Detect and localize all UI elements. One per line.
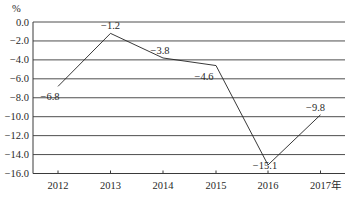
y-tick-label: 0.0 <box>16 17 29 28</box>
x-tick-label: 2015 <box>206 180 227 191</box>
y-tick-label: −16.0 <box>5 168 29 179</box>
y-tick-label: −10.0 <box>5 111 29 122</box>
y-tick-label: −8.0 <box>10 92 29 103</box>
gridlines <box>33 22 345 155</box>
x-tick-label: 2016 <box>258 180 279 191</box>
y-axis-unit: % <box>12 3 21 14</box>
x-tick-label: 2017年 <box>310 179 341 191</box>
y-axis-ticks: 0.0−2.0−4.0−6.0−8.0−10.0−12.0−14.0−16.0 <box>5 17 29 180</box>
data-label: −15.1 <box>253 160 277 171</box>
data-label: −3.8 <box>150 45 169 56</box>
y-tick-label: −4.0 <box>10 54 29 65</box>
data-label: −6.8 <box>40 91 59 102</box>
x-tick-label: 2014 <box>153 180 175 191</box>
y-tick-label: −2.0 <box>10 35 29 46</box>
data-label: −4.6 <box>194 71 213 82</box>
data-label: −9.8 <box>306 102 325 113</box>
y-tick-label: −6.0 <box>10 73 29 84</box>
data-labels: −6.8−1.2−3.8−4.6−15.1−9.8 <box>40 20 325 171</box>
x-tick-label: 2013 <box>100 180 121 191</box>
y-tick-label: −14.0 <box>5 149 29 160</box>
x-tick-label: 2012 <box>48 180 69 191</box>
data-label: −1.2 <box>101 20 120 31</box>
line-chart: % 0.0−2.0−4.0−6.0−8.0−10.0−12.0−14.0−16.… <box>0 0 348 200</box>
y-tick-label: −12.0 <box>5 130 29 141</box>
series-line <box>58 33 321 165</box>
